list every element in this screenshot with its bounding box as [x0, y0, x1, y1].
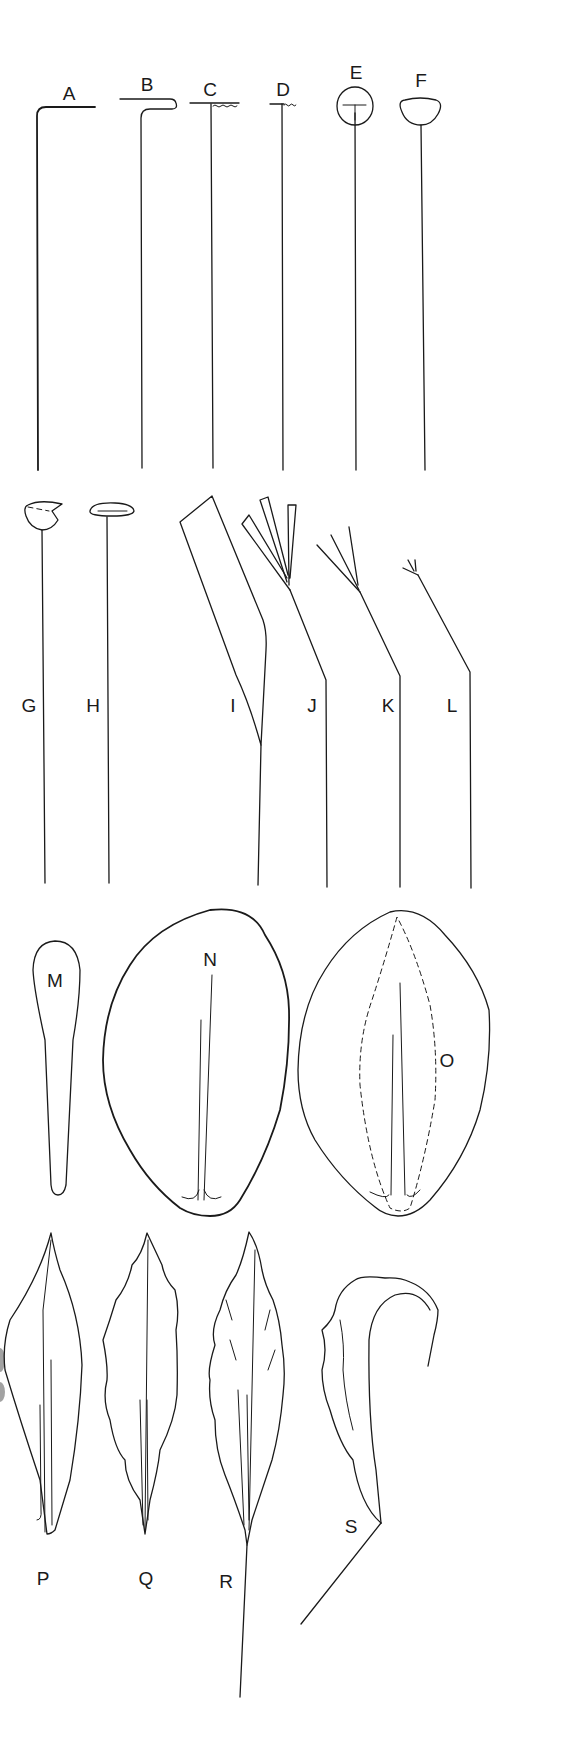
item-d-wavy-edge: [284, 104, 296, 106]
label-i: I: [230, 695, 235, 716]
item-h-head: [90, 503, 134, 516]
item-n-base-left: [182, 1190, 199, 1199]
item-p-outline: [4, 1233, 82, 1534]
item-r-midrib: [249, 1250, 255, 1530]
label-s: S: [345, 1516, 358, 1537]
item-k: K: [317, 527, 400, 887]
label-b: B: [141, 74, 154, 95]
label-e: E: [350, 62, 363, 83]
item-g: G: [22, 502, 62, 883]
label-p: P: [37, 1568, 50, 1589]
item-r: R: [209, 1232, 284, 1697]
label-l: L: [447, 695, 458, 716]
item-s-inner-curl: [369, 1293, 430, 1523]
item-o-outline: [298, 911, 490, 1216]
item-k-branch-3: [349, 527, 358, 585]
item-o-base-right: [407, 1190, 420, 1197]
item-p: P: [4, 1233, 82, 1589]
label-q: Q: [139, 1568, 154, 1589]
item-n-midrib: [204, 975, 212, 1200]
item-j: J: [242, 497, 327, 887]
item-r-inner-line-1: [238, 1390, 244, 1525]
item-n-base-right: [204, 1190, 221, 1199]
item-o: O: [298, 911, 490, 1216]
label-k: K: [382, 695, 395, 716]
label-c: C: [203, 79, 217, 100]
item-a: A: [37, 83, 95, 470]
item-b-stalk: [120, 99, 177, 468]
item-r-veins: [226, 1300, 275, 1370]
item-f-stalk: [421, 125, 425, 470]
item-o-base-left: [370, 1192, 389, 1197]
item-h: H: [86, 503, 134, 883]
item-l-stalk: [418, 575, 471, 888]
item-q: Q: [103, 1233, 178, 1589]
item-p-midrib: [43, 1240, 51, 1532]
item-l-branch-2: [408, 560, 414, 571]
label-h: H: [86, 695, 100, 716]
item-f: F: [400, 70, 440, 470]
item-f-head: [400, 98, 440, 125]
item-j-stalk: [290, 590, 327, 887]
item-n-inner-line: [198, 1020, 201, 1200]
item-d: D: [270, 79, 296, 470]
item-c-wavy-edge: [213, 105, 237, 107]
item-r-outline: [209, 1232, 284, 1545]
item-n: N: [103, 909, 289, 1216]
item-o-midrib: [400, 983, 405, 1195]
item-n-outline: [103, 909, 289, 1216]
item-e: E: [337, 62, 373, 470]
label-o: O: [440, 1050, 455, 1071]
item-a-stalk: [37, 107, 95, 470]
item-q-outline: [103, 1233, 178, 1534]
item-c: C: [190, 79, 239, 468]
item-l-branch-3: [415, 560, 416, 571]
item-i-blade: [180, 496, 266, 745]
label-g: G: [22, 695, 37, 716]
item-k-stalk: [360, 592, 400, 887]
item-o-dashed-outline: [360, 917, 436, 1211]
label-n: N: [203, 949, 217, 970]
label-r: R: [219, 1571, 233, 1592]
item-s-stalk: [301, 1523, 381, 1624]
item-s: S: [301, 1277, 438, 1624]
item-e-stalk: [355, 113, 356, 470]
item-s-inner-fold: [340, 1320, 353, 1430]
label-f: F: [415, 70, 427, 91]
item-g-head: [25, 502, 62, 530]
item-i-stalk: [258, 745, 261, 885]
item-g-dashed-line: [28, 507, 49, 511]
item-m: M: [33, 941, 80, 1195]
item-q-inner-line-2: [147, 1400, 148, 1520]
item-g-stalk: [42, 530, 45, 883]
figure-illustration: A B C D E F G: [0, 0, 563, 1750]
item-i: I: [180, 496, 266, 885]
label-m: M: [47, 970, 63, 991]
item-h-stalk: [107, 517, 109, 883]
label-d: D: [276, 79, 290, 100]
item-j-flag-3: [288, 505, 296, 585]
item-c-stalk: [211, 104, 213, 468]
item-r-stalk: [240, 1545, 247, 1697]
item-b: B: [120, 74, 177, 468]
scan-shadow-2: [0, 1382, 5, 1402]
label-j: J: [307, 695, 317, 716]
item-k-branch-1: [317, 545, 360, 592]
item-d-stalk: [282, 104, 283, 470]
item-o-inner-line: [391, 1035, 393, 1195]
item-s-outer-curl: [322, 1277, 438, 1523]
item-p-inner-line-1: [51, 1360, 52, 1525]
item-l: L: [403, 560, 471, 888]
item-r-inner-line-2: [247, 1395, 249, 1520]
label-a: A: [63, 83, 76, 104]
item-p-inner-line-2: [37, 1405, 41, 1520]
